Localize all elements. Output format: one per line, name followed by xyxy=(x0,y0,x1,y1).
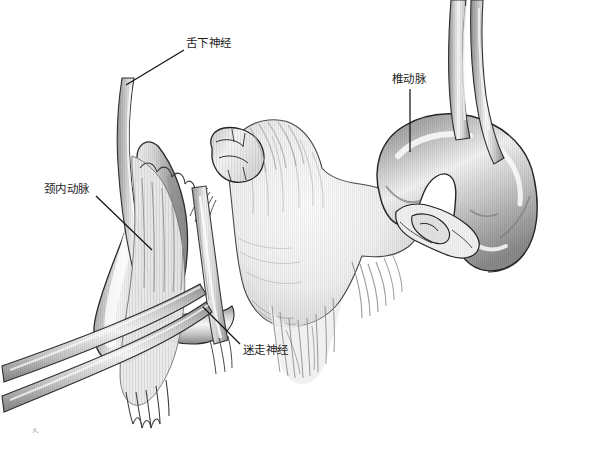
anatomical-figure: 舌下神经 颈内动脉 椎动脉 迷走神经 xyxy=(0,0,607,449)
label-vertebral-artery: 椎动脉 xyxy=(392,73,426,86)
vagus-nerve xyxy=(192,186,232,374)
ink-speck xyxy=(33,428,38,433)
leader-hypoglossal-nerve xyxy=(126,50,184,85)
label-vagus-nerve: 迷走神经 xyxy=(243,344,289,357)
label-internal-carotid-artery: 颈内动脉 xyxy=(44,183,90,196)
label-hypoglossal-nerve: 舌下神经 xyxy=(186,37,232,50)
illustration-canvas xyxy=(0,0,607,449)
